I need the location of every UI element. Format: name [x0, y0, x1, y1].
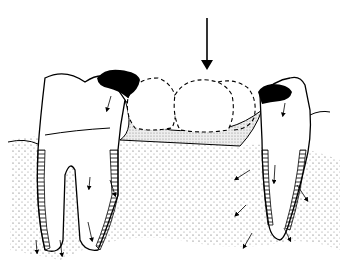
gum-line-right — [310, 111, 330, 115]
load-arrow-head — [201, 60, 213, 70]
pontic-right — [174, 80, 233, 132]
dental-bridge-diagram — [0, 0, 344, 273]
